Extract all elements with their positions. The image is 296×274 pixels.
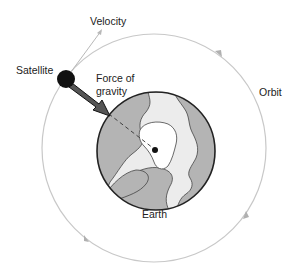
earth-label: Earth: [142, 208, 167, 220]
satellite: [57, 70, 75, 88]
orbit-arrow-icon: [243, 211, 249, 219]
force-of-gravity-label-line1: Force of: [96, 72, 135, 84]
earth: [97, 92, 215, 212]
velocity-vector: [68, 31, 101, 76]
velocity-label: Velocity: [90, 15, 126, 27]
force-of-gravity-label-line2: gravity: [96, 85, 127, 97]
velocity-arrowhead-icon: [97, 29, 102, 35]
satellite-label: Satellite: [16, 64, 53, 76]
earth-center-dot: [152, 147, 158, 153]
orbit-diagram: [0, 0, 296, 274]
orbit-label: Orbit: [259, 86, 282, 98]
